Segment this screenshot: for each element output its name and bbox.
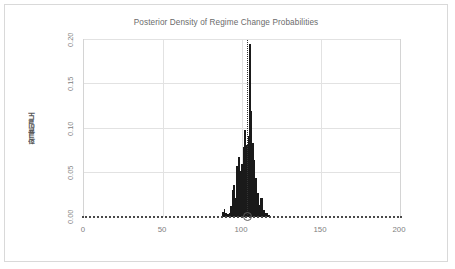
x-axis-ticks: 050100150200 [83, 225, 401, 239]
chart-frame: Posterior Density of Regime Change Proba… [4, 4, 448, 262]
y-tick-label: 0.10 [59, 122, 81, 136]
y-axis-label: 확률밀도 [27, 101, 39, 155]
y-tick-label: 0.15 [59, 77, 81, 91]
x-tick-label: 50 [142, 225, 182, 234]
y-tick-label: 0.20 [59, 33, 81, 47]
x-tick-label: 0 [63, 225, 103, 234]
y-tick-label: 0.00 [59, 210, 81, 224]
x-tick-label: 150 [300, 225, 340, 234]
plot-area [83, 39, 401, 217]
median-line [247, 40, 248, 217]
chart-title: Posterior Density of Regime Change Proba… [5, 18, 447, 27]
median-marker-icon [243, 212, 252, 221]
histogram-bars [84, 40, 400, 217]
x-tick-label: 200 [379, 225, 419, 234]
x-tick-label: 100 [221, 225, 261, 234]
y-axis-ticks: 0.000.050.100.150.20 [55, 39, 81, 217]
y-tick-label: 0.05 [59, 166, 81, 180]
